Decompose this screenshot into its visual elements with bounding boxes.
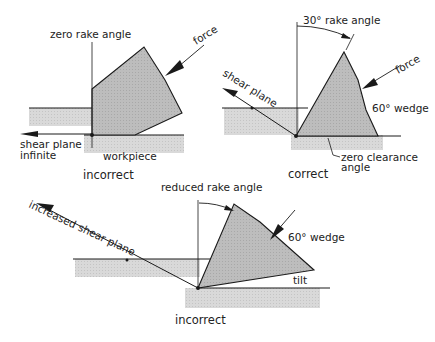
label-reduced-rake: reduced rake angle [161,181,263,193]
caption-top-right: correct [288,167,329,181]
cutting-tool-diagram: zero rake angle force shear plane infini… [0,0,435,342]
label-zero-rake: zero rake angle [50,28,131,40]
workpiece-lower [185,288,320,308]
label-shear-plane: shear plane [221,67,280,110]
caption-top-left: incorrect [83,168,134,182]
label-30-rake: 30° rake angle [303,14,380,26]
label-force: force [393,52,422,76]
label-infinite: infinite [20,149,56,161]
label-workpiece: workpiece [103,150,157,162]
force-arrow-icon [165,60,184,76]
panel-tilt: reduced rake angle increased shear plane… [27,181,345,327]
cutting-tool [296,52,378,136]
label-angle: angle [341,161,370,173]
label-increased-shear: increased shear plane [27,198,137,258]
force-arrow-icon [362,78,378,89]
panel-zero-rake: zero rake angle force shear plane infini… [20,23,219,182]
caption-bottom: incorrect [175,313,226,327]
workpiece-upper [29,108,92,126]
label-force: force [191,23,220,47]
label-60-wedge: 60° wedge [288,231,345,243]
workpiece-upper [75,259,200,277]
cutting-tool [92,47,182,135]
panel-correct: 30° rake angle force shear plane 60° wed… [221,14,429,181]
label-60-wedge: 60° wedge [372,102,429,114]
label-tilt: tilt [293,274,307,286]
workpiece-lower [291,135,383,150]
arrow-left-icon [20,131,38,137]
